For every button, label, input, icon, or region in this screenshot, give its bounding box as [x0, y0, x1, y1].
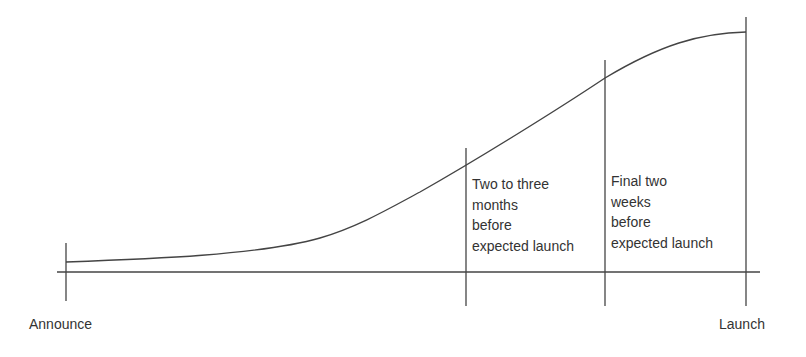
- launch-label: Launch: [719, 316, 765, 333]
- announce-label: Announce: [29, 316, 92, 333]
- phase-2-label: Final two weeks before expected launch: [611, 171, 713, 253]
- phase-1-label: Two to three months before expected laun…: [472, 174, 574, 256]
